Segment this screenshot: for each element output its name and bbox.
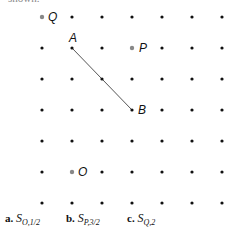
grid-dot: [220, 46, 223, 49]
label-a: A: [69, 32, 77, 44]
grid-dot: [100, 201, 103, 204]
grid-dot: [160, 170, 163, 173]
caption-letter: c.: [127, 212, 137, 224]
grid-dot: [100, 15, 103, 18]
caption-a: a. SO,1/2: [5, 211, 40, 227]
point-o: [70, 170, 74, 174]
point-p: [130, 46, 134, 50]
grid-dot: [160, 77, 163, 80]
grid-dot: [190, 108, 193, 111]
dilation-diagram: shown. QAPBO a. SO,1/2b. SP,3/2c. SQ,2: [0, 0, 235, 229]
grid-dot: [190, 15, 193, 18]
grid-dot: [220, 201, 223, 204]
grid-dot: [40, 139, 43, 142]
grid-dot: [160, 108, 163, 111]
grid-dot: [190, 170, 193, 173]
grid-dot: [220, 77, 223, 80]
grid-dot: [40, 46, 43, 49]
grid-dot: [160, 46, 163, 49]
caption-b: b. SP,3/2: [66, 211, 100, 227]
point-q: [40, 15, 44, 19]
grid-dot: [100, 108, 103, 111]
label-p: P: [139, 42, 147, 54]
grid-dot: [100, 170, 103, 173]
grid-dot: [70, 139, 73, 142]
grid-dot: [70, 15, 73, 18]
grid-dot: [70, 108, 73, 111]
grid-dot: [40, 201, 43, 204]
grid-dot: [100, 77, 103, 80]
grid-dot: [190, 77, 193, 80]
grid-dot: [190, 139, 193, 142]
caption-letter: a.: [5, 212, 16, 224]
grid-dot: [40, 170, 43, 173]
grid-dot: [40, 77, 43, 80]
grid-dot: [130, 77, 133, 80]
grid-dot: [160, 201, 163, 204]
grid-dot: [100, 46, 103, 49]
grid-dot: [220, 108, 223, 111]
grid-dot: [190, 46, 193, 49]
grid-dot: [70, 77, 73, 80]
point-b: [130, 108, 133, 111]
grid-dot: [220, 170, 223, 173]
caption-letter: b.: [66, 212, 78, 224]
dilation-subscript: Q,2: [143, 218, 155, 227]
grid-dot: [220, 15, 223, 18]
caption-c: c. SQ,2: [127, 211, 155, 227]
grid-dot: [130, 201, 133, 204]
grid-dot: [190, 201, 193, 204]
grid-dot: [160, 139, 163, 142]
grid-dot: [160, 15, 163, 18]
dilation-subscript: O,1/2: [22, 218, 40, 227]
grid-dot: [130, 139, 133, 142]
point-a: [70, 46, 73, 49]
grid-dot: [40, 108, 43, 111]
grid-dot: [130, 170, 133, 173]
grid-dot: [100, 139, 103, 142]
label-b: B: [138, 104, 146, 116]
grid-dot: [70, 201, 73, 204]
grid-dot: [220, 139, 223, 142]
grid-dot: [130, 15, 133, 18]
label-q: Q: [48, 11, 57, 23]
dilation-subscript: P,3/2: [84, 218, 100, 227]
dot-grid: [0, 0, 235, 229]
label-o: O: [78, 166, 87, 178]
